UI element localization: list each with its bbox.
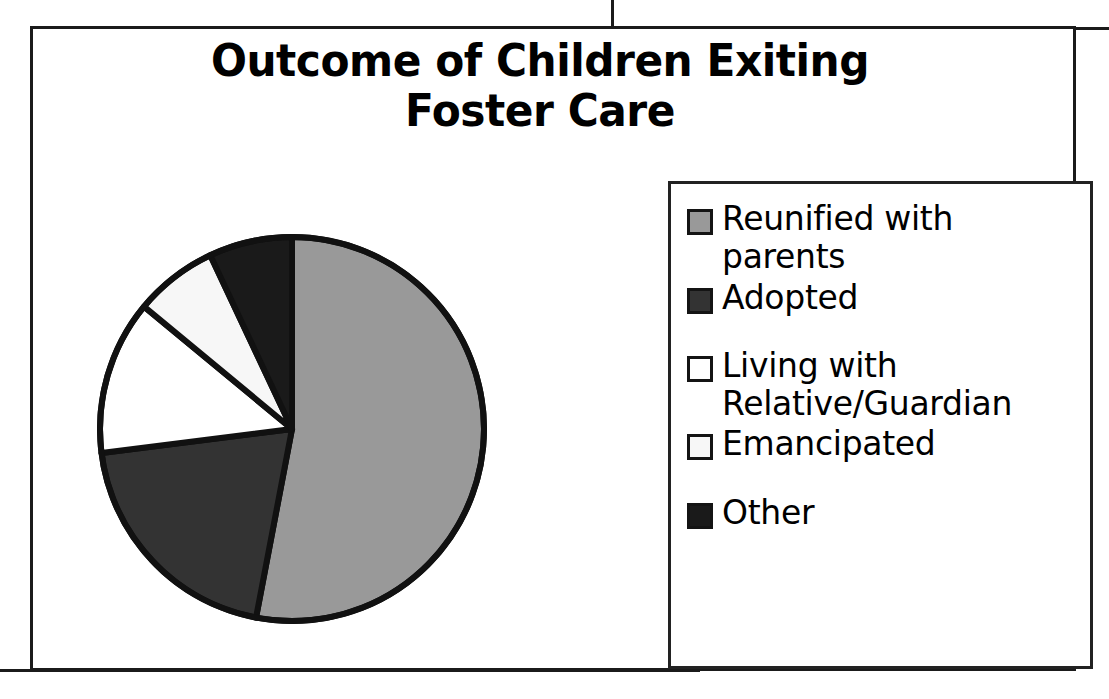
- legend-swatch-icon-living-with-relative-guardian: [687, 356, 713, 382]
- legend-label-adopted: Adopted: [722, 279, 858, 317]
- legend-item-emancipated[interactable]: Emancipated: [687, 425, 1080, 463]
- legend-label-emancipated: Emancipated: [722, 425, 936, 463]
- pie-slice: [102, 429, 292, 618]
- legend-label-reunified-with-parents: Reunified with parents: [722, 200, 1080, 277]
- legend-swatch-icon-adopted: [687, 288, 713, 314]
- legend-swatch-icon-emancipated: [687, 434, 713, 460]
- legend-swatch-icon-reunified-with-parents: [687, 209, 713, 235]
- legend-item-other[interactable]: Other: [687, 494, 1080, 532]
- pie-chart: [93, 230, 491, 628]
- pie-svg: [93, 230, 491, 628]
- legend-item-reunified-with-parents[interactable]: Reunified with parents: [687, 200, 1080, 277]
- page-title: Outcome of Children Exiting Foster Care: [70, 36, 1010, 137]
- legend-item-living-with-relative-guardian[interactable]: Living with Relative/Guardian: [687, 347, 1080, 424]
- top-vertical-rule: [611, 0, 614, 28]
- legend-label-other: Other: [722, 494, 814, 532]
- legend-label-living-with-relative-guardian: Living with Relative/Guardian: [722, 347, 1080, 424]
- legend-swatch-icon-other: [687, 503, 713, 529]
- chart-page: Outcome of Children Exiting Foster Care …: [0, 0, 1109, 699]
- legend: Reunified with parents Adopted Living wi…: [668, 181, 1093, 669]
- legend-item-adopted[interactable]: Adopted: [687, 279, 1080, 317]
